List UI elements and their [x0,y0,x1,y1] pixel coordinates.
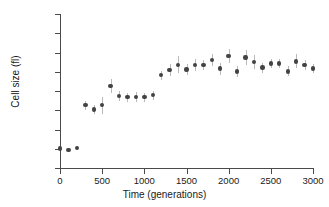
x-tick [102,169,103,174]
data-point [92,107,96,111]
x-axis-label: Time (generations) [0,189,329,200]
data-point [184,67,188,71]
data-point [201,63,205,67]
x-tick [187,169,188,174]
plot-area [60,14,313,168]
data-point [311,66,315,70]
data-point [100,103,104,107]
data-point [151,93,155,97]
data-point [226,54,230,58]
x-tick-label: 3000 [293,175,329,186]
x-tick-label: 1500 [167,175,207,186]
data-point [117,94,121,98]
data-point [167,68,171,72]
chart-figure: 0.300.350.400.450.500.550.600.650.70 050… [0,0,329,207]
data-point [58,146,62,150]
x-tick-label: 500 [82,175,122,186]
data-point [83,103,87,107]
x-tick [271,169,272,174]
x-tick [60,169,61,174]
data-point [277,61,281,65]
data-point [176,63,180,67]
x-tick-label: 0 [40,175,80,186]
x-tick [229,169,230,174]
x-tick-label: 1000 [124,175,164,186]
x-tick [313,169,314,174]
data-point [75,146,79,150]
data-point [142,95,146,99]
data-point [125,95,129,99]
data-point [210,58,214,62]
x-tick [144,169,145,174]
data-point [260,65,264,69]
x-tick-label: 2000 [209,175,249,186]
data-point [286,69,290,73]
data-point [218,66,222,70]
data-point [294,59,298,63]
data-point [108,84,112,88]
y-axis-label: Cell size (fl) [10,22,21,142]
data-point [134,95,138,99]
data-point [66,148,70,152]
data-point [159,73,163,77]
x-tick-label: 2500 [251,175,291,186]
data-point [243,55,247,59]
data-point [252,60,256,64]
data-point [235,69,239,73]
data-point [193,63,197,67]
data-point [302,63,306,67]
data-point [269,61,273,65]
